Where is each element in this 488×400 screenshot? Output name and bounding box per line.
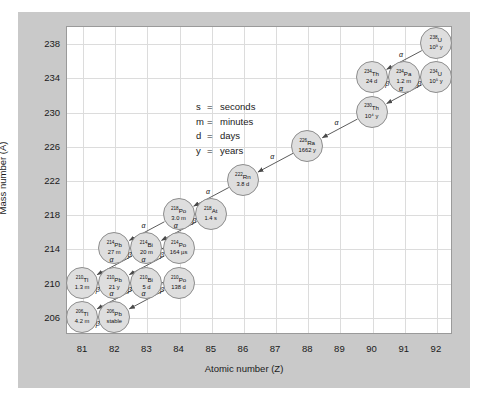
nuclide-node-bi210[interactable]: 210Bi5 d (130, 267, 162, 299)
x-axis-label: Atomic number (Z) (205, 363, 284, 374)
x-tick-label: 87 (270, 343, 281, 354)
legend-meaning: minutes (220, 116, 253, 127)
half-life-label: 10⁹ y (429, 44, 442, 50)
nuclide-node-th234[interactable]: 234Th24 d (356, 61, 388, 93)
mass-number: 210 (107, 275, 115, 280)
nuclide-node-u234[interactable]: 234U10⁵ y (420, 61, 452, 93)
nuclide-node-pb214[interactable]: 214Pb27 m (98, 232, 130, 264)
legend-equals: = (207, 130, 220, 141)
nuclide-label: 206Tl (76, 310, 89, 318)
decay-mode-label-α: α (142, 256, 146, 263)
nuclide-label: 210Bi (140, 276, 153, 284)
nuclide-node-rn222[interactable]: 222Rn3.8 d (227, 164, 259, 196)
nuclide-node-po218[interactable]: 218Po3.0 m (163, 198, 195, 230)
gridline-horizontal (67, 147, 451, 148)
half-life-label: 5 d (142, 284, 150, 290)
half-life-label: 3.0 m (171, 215, 186, 221)
x-tick-label: 84 (173, 343, 184, 354)
legend-row: d=days (196, 130, 255, 141)
decay-mode-label-α: α (270, 153, 274, 160)
y-axis-label: Mass number (A) (0, 142, 8, 215)
x-tick-label: 89 (334, 343, 345, 354)
nuclide-node-at218[interactable]: 218At1.4 s (195, 198, 227, 230)
mass-number: 214 (171, 240, 179, 245)
half-life-label: 1.4 s (204, 215, 217, 221)
gridline-horizontal (67, 215, 451, 216)
nuclide-label: 210Pb (107, 276, 122, 284)
x-tick-label: 91 (398, 343, 409, 354)
nuclide-node-po210[interactable]: 210Po138 d (163, 267, 195, 299)
decay-chain-figure: Mass number (A) Atomic number (Z) 238234… (0, 0, 488, 400)
nuclide-node-u238[interactable]: 238U10⁹ y (420, 27, 452, 59)
gridline-vertical (340, 27, 341, 333)
half-life-label: 3.8 d (236, 181, 249, 187)
nuclide-label: 222Rn (235, 173, 251, 181)
legend-meaning: years (220, 145, 243, 156)
decay-mode-label-α: α (109, 256, 113, 263)
nuclide-node-pb206[interactable]: 206Pbstable (98, 301, 130, 333)
element-symbol: U (438, 36, 442, 43)
mass-number: 210 (171, 275, 179, 280)
half-life-label: stable (107, 318, 122, 324)
nuclide-node-tl210[interactable]: 210Tl1.3 m (66, 267, 98, 299)
decay-mode-label-α: α (142, 221, 146, 228)
element-symbol: Th (372, 70, 379, 77)
gridline-vertical (212, 27, 213, 333)
gridline-vertical (276, 27, 277, 333)
decay-mode-label-α: α (335, 119, 339, 126)
y-tick-label: 230 (44, 106, 60, 117)
nuclide-node-pa234[interactable]: 234Pa1.2 m (388, 61, 420, 93)
decay-mode-label-α: α (399, 85, 403, 92)
y-tick-label: 218 (44, 209, 60, 220)
nuclide-node-bi214[interactable]: 214Bi20 m (130, 232, 162, 264)
nuclide-label: 210Tl (76, 276, 89, 284)
legend-symbol: s (196, 101, 207, 112)
y-tick-label: 222 (44, 175, 60, 186)
nuclide-label: 234U (430, 70, 442, 78)
element-symbol: Tl (83, 276, 88, 283)
element-symbol: Po (179, 241, 187, 248)
decay-mode-label-β: β (160, 285, 164, 292)
x-tick-label: 85 (205, 343, 216, 354)
element-symbol: Bi (147, 241, 153, 248)
y-tick-label: 226 (44, 140, 60, 151)
nuclide-node-pb210[interactable]: 210Pb21 y (98, 267, 130, 299)
decay-mode-label-α: α (399, 50, 403, 57)
x-tick-label: 81 (77, 343, 88, 354)
decay-mode-label-β: β (385, 80, 389, 87)
mass-number: 206 (107, 309, 115, 314)
element-symbol: Th (372, 105, 379, 112)
x-tick-label: 86 (238, 343, 249, 354)
nuclide-label: 214Po (171, 241, 186, 249)
decay-mode-label-α: α (206, 187, 210, 194)
element-symbol: Ra (307, 139, 315, 146)
y-tick-label: 214 (44, 243, 60, 254)
half-life-label: 164 µs (170, 249, 188, 255)
nuclide-node-th230[interactable]: 230Th10⁴ y (356, 96, 388, 128)
legend-row: m=minutes (196, 116, 255, 127)
y-tick-label: 234 (44, 72, 60, 83)
half-life-label: 27 m (108, 249, 121, 255)
nuclide-label: 214Bi (140, 241, 153, 249)
gridline-vertical (308, 27, 309, 333)
element-symbol: Po (179, 276, 187, 283)
element-symbol: Rn (243, 173, 251, 180)
half-life-label: 10⁴ y (365, 113, 378, 119)
decay-mode-label-β: β (192, 217, 196, 224)
mass-number: 222 (235, 172, 243, 177)
nuclide-node-ra226[interactable]: 226Ra1662 y (291, 130, 323, 162)
nuclide-node-po214[interactable]: 214Po164 µs (163, 232, 195, 264)
y-tick-label: 238 (44, 38, 60, 49)
x-tick-label: 82 (109, 343, 120, 354)
mass-number: 234 (430, 69, 438, 74)
nuclide-label: 218At (204, 207, 218, 215)
decay-mode-label-β: β (128, 251, 132, 258)
mass-number: 218 (204, 206, 212, 211)
legend-equals: = (207, 145, 220, 156)
legend-row: s=seconds (196, 101, 255, 112)
decay-mode-label-β: β (417, 80, 421, 87)
legend-equals: = (207, 116, 220, 127)
legend-equals: = (207, 101, 220, 112)
nuclide-node-tl206[interactable]: 206Tl4.2 m (66, 301, 98, 333)
decay-mode-label-α: α (109, 290, 113, 297)
